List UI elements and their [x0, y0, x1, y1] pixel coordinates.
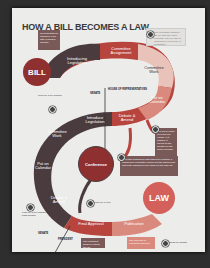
step-introduce-legislation: Introduce Legislation	[80, 114, 110, 126]
label-president: PRESIDENT	[58, 238, 73, 241]
step-debate-amend-senate: Debate & Amend	[46, 194, 72, 206]
info-icon	[49, 106, 56, 113]
step-introducing-legislation: Introducing Legislation	[60, 54, 94, 68]
note-final-approval: The president signs or vetoes the bill	[81, 238, 105, 248]
step-committee-work-senate: Committee Work	[44, 128, 70, 140]
bill-label: BILL	[28, 68, 46, 77]
step-put-on-calendar-senate: Put on Calendar	[32, 160, 54, 172]
step-put-on-calendar-house: Put on Calendar	[146, 94, 168, 106]
bill-circle: BILL	[23, 58, 51, 86]
label-house: HOUSE OF REPRESENTATIVES	[108, 88, 148, 91]
note-conference: If the two chambers pass different versi…	[120, 156, 178, 176]
conference-label: Conference	[85, 162, 107, 167]
label-left-lower: Look for a bill number for both houses	[22, 211, 50, 217]
label-left-upper: Look for a bill number	[36, 94, 64, 97]
label-veto: Look for a veto	[94, 201, 111, 204]
step-publication: Publication	[117, 218, 151, 230]
info-icon	[152, 126, 159, 133]
law-label: LAW	[149, 193, 169, 203]
note-mid-right: The bill is voted on in the full House. …	[155, 128, 177, 156]
info-icon	[27, 204, 34, 211]
info-icon	[147, 31, 154, 38]
step-committee-assignment: Committee Assignment	[104, 44, 138, 58]
note-publication: The new law is published and filed	[127, 237, 155, 249]
conference-circle: Conference	[78, 146, 114, 182]
label-bottom-right: Ideas for debate	[169, 241, 187, 244]
step-final-approval: Final Approval	[78, 218, 104, 230]
step-debate-amend-house: Debate & Amend	[112, 112, 142, 124]
poster: HOW A BILL BECOMES A LAW BILL LAW Confer…	[12, 8, 205, 252]
info-icon	[162, 240, 169, 247]
step-committee-work-house: Committee Work	[142, 63, 166, 77]
label-senate-top: SENATE	[90, 92, 100, 95]
law-circle: LAW	[143, 182, 175, 214]
note-top-left: Representatives introduce a bill with a …	[38, 30, 60, 50]
info-icon	[87, 200, 94, 207]
info-icon	[118, 154, 125, 161]
label-senate-bottom: SENATE	[38, 232, 48, 235]
